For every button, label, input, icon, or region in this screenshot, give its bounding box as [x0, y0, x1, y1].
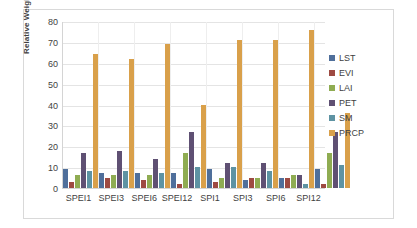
bar-group: [171, 22, 207, 188]
bar-lai-spi6: [291, 175, 296, 188]
bar-pet-spei1: [81, 153, 86, 188]
bar-sm-spei3: [123, 171, 128, 188]
bar-sm-spei1: [87, 171, 92, 188]
legend-label: PET: [339, 98, 357, 108]
legend-label: PRCP: [339, 128, 364, 138]
bar-group: [207, 22, 243, 188]
plot-area: [62, 22, 325, 189]
bar-pet-spei3: [117, 151, 122, 188]
legend-swatch-icon: [329, 70, 335, 76]
y-axis-tick: 80: [48, 17, 58, 27]
bar-prcp-spei3: [129, 59, 134, 188]
y-axis-title: Relative Weight (%): [22, 0, 31, 66]
bar-evi-spi12: [321, 184, 326, 188]
bar-evi-spei1: [69, 182, 74, 188]
bar-evi-spi3: [249, 178, 254, 188]
bar-group: [63, 22, 99, 188]
bar-evi-spei12: [177, 184, 182, 188]
bar-prcp-spei12: [201, 105, 206, 189]
x-axis-tick: SPI3: [226, 193, 259, 203]
bar-lst-spei1: [63, 169, 68, 188]
chart-legend: LSTEVILAIPETSMPRCP: [329, 50, 387, 140]
y-axis-tick: 40: [48, 101, 58, 111]
bar-pet-spi12: [333, 132, 338, 188]
legend-swatch-icon: [329, 55, 335, 61]
legend-label: LST: [339, 53, 356, 63]
bar-sm-spi6: [303, 184, 308, 188]
bar-prcp-spei6: [165, 44, 170, 188]
bar-evi-spei3: [105, 178, 110, 188]
bar-pet-spi6: [297, 175, 302, 188]
bar-evi-spei6: [141, 180, 146, 188]
bar-lai-spei12: [183, 153, 188, 188]
y-axis-tick-labels: 01020304050607080: [34, 10, 58, 218]
legend-label: LAI: [339, 83, 353, 93]
bar-sm-spei12: [195, 167, 200, 188]
bar-pet-spi3: [261, 163, 266, 188]
bar-lst-spei3: [99, 173, 104, 188]
chart-container: Relative Weight (%) 01020304050607080 SP…: [23, 9, 394, 219]
legend-item-prcp[interactable]: PRCP: [329, 125, 387, 140]
bar-pet-spei6: [153, 159, 158, 188]
bar-group: [279, 22, 315, 188]
x-axis-tick: SPI1: [194, 193, 227, 203]
x-axis-tick-labels: SPEI1SPEI3SPEI6SPEI12SPI1SPI3SPI6SPI12: [62, 193, 325, 203]
bar-prcp-spi1: [237, 40, 242, 188]
legend-item-lai[interactable]: LAI: [329, 80, 387, 95]
bar-lai-spei1: [75, 175, 80, 188]
x-axis-tick: SPEI3: [95, 193, 128, 203]
bar-evi-spi6: [285, 178, 290, 188]
legend-item-sm[interactable]: SM: [329, 110, 387, 125]
legend-swatch-icon: [329, 85, 335, 91]
legend-swatch-icon: [329, 130, 335, 136]
bar-lai-spi12: [327, 153, 332, 188]
bar-prcp-spi6: [309, 30, 314, 188]
bar-lai-spei6: [147, 175, 152, 188]
legend-item-evi[interactable]: EVI: [329, 65, 387, 80]
legend-swatch-icon: [329, 100, 335, 106]
bar-lai-spi1: [219, 178, 224, 188]
bar-pet-spi1: [225, 163, 230, 188]
bar-lst-spi1: [207, 169, 212, 188]
bar-lst-spi12: [315, 169, 320, 188]
y-axis-tick: 20: [48, 142, 58, 152]
y-axis-tick: 10: [48, 163, 58, 173]
bar-group: [135, 22, 171, 188]
bar-sm-spi1: [231, 167, 236, 188]
bar-lst-spi6: [279, 178, 284, 188]
bar-group: [243, 22, 279, 188]
bar-sm-spei6: [159, 173, 164, 188]
legend-swatch-icon: [329, 115, 335, 121]
y-axis-tick: 50: [48, 80, 58, 90]
y-axis-tick: 30: [48, 121, 58, 131]
bar-lai-spei3: [111, 175, 116, 188]
x-axis-tick: SPEI12: [161, 193, 194, 203]
bar-prcp-spi3: [273, 40, 278, 188]
x-axis-tick: SPEI6: [128, 193, 161, 203]
legend-label: SM: [339, 113, 353, 123]
legend-item-lst[interactable]: LST: [329, 50, 387, 65]
x-axis-tick: SPEI1: [62, 193, 95, 203]
bar-groups: [63, 22, 325, 188]
bar-evi-spi1: [213, 182, 218, 188]
legend-item-pet[interactable]: PET: [329, 95, 387, 110]
bar-lst-spei12: [171, 173, 176, 188]
legend-label: EVI: [339, 68, 354, 78]
bar-lst-spei6: [135, 173, 140, 188]
x-axis-tick: SPI6: [259, 193, 292, 203]
bar-pet-spei12: [189, 132, 194, 188]
bar-lai-spi3: [255, 178, 260, 188]
y-axis-tick: 0: [53, 184, 58, 194]
y-axis-tick: 60: [48, 59, 58, 69]
y-axis-tick: 70: [48, 38, 58, 48]
x-axis-tick: SPI12: [292, 193, 325, 203]
bar-sm-spi3: [267, 171, 272, 188]
bar-prcp-spei1: [93, 54, 98, 188]
bar-lst-spi3: [243, 180, 248, 188]
bar-group: [99, 22, 135, 188]
bar-sm-spi12: [339, 165, 344, 188]
